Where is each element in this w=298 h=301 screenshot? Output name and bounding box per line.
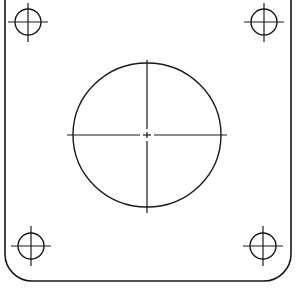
corner-hole-top-right: [244, 3, 284, 42]
center-hole: [67, 60, 227, 213]
corner-hole-top-left: [8, 3, 48, 42]
corner-hole-bottom-left: [11, 226, 51, 266]
plate-outline: [5, 0, 291, 281]
corner-hole-bottom-right: [243, 226, 283, 266]
plate-drawing: [0, 0, 298, 301]
